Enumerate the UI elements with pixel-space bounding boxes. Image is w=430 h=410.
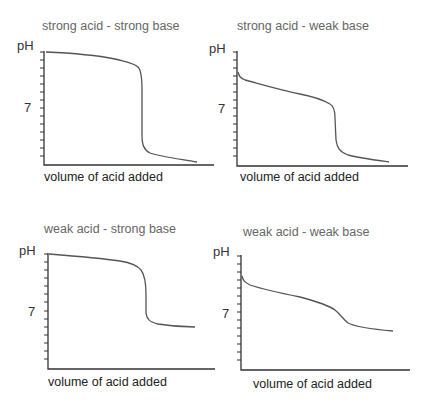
y-tick-label-7: 7 — [218, 101, 225, 116]
panel-weak-acid-weak-base: weak acid - weak base pH 7 volume of aci… — [213, 225, 410, 391]
y-tick-label-7: 7 — [28, 304, 35, 319]
y-axis-label: pH — [213, 244, 230, 259]
panel-title: strong acid - weak base — [237, 19, 369, 33]
axes — [241, 255, 410, 370]
panel-title: weak acid - strong base — [43, 222, 176, 236]
y-tick-label-7: 7 — [222, 306, 229, 321]
axes — [44, 51, 214, 165]
x-axis-label: volume of acid added — [48, 375, 167, 389]
titration-curve — [46, 52, 197, 162]
panel-title: strong acid - strong base — [42, 19, 180, 33]
y-axis-label: pH — [17, 38, 34, 53]
x-axis-label: volume of acid added — [240, 170, 359, 184]
y-tick-label-7: 7 — [24, 100, 31, 115]
axes — [48, 253, 215, 369]
panel-strong-acid-strong-base: strong acid - strong base pH 7 volume of… — [17, 19, 214, 184]
panel-title: weak acid - weak base — [242, 225, 370, 239]
titration-curve — [49, 254, 195, 327]
titration-curve — [238, 72, 389, 162]
y-axis-label: pH — [209, 41, 226, 56]
y-axis-label: pH — [19, 243, 36, 258]
panel-strong-acid-weak-base: strong acid - weak base pH 7 volume of a… — [209, 19, 408, 184]
axes — [237, 51, 408, 166]
panel-weak-acid-strong-base: weak acid - strong base pH 7 volume of a… — [19, 222, 215, 389]
titration-curve — [242, 276, 393, 331]
titration-curves-figure: strong acid - strong base pH 7 volume of… — [0, 0, 430, 410]
x-axis-label: volume of acid added — [44, 170, 163, 184]
x-axis-label: volume of acid added — [253, 377, 372, 391]
